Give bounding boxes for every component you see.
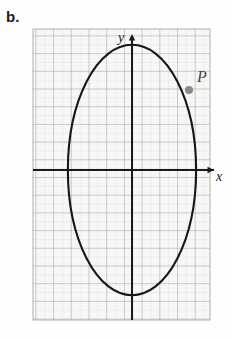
- figure-canvas: b. P y: [0, 0, 232, 338]
- point-p-label: P: [196, 68, 207, 85]
- major-gridlines: [33, 29, 210, 320]
- ellipse-plot: P y x: [0, 0, 232, 338]
- graph-paper: [33, 29, 210, 320]
- x-axis-arrowhead: [208, 167, 215, 173]
- x-axis-label: x: [215, 169, 223, 184]
- y-axis-label: y: [116, 30, 125, 45]
- point-p-marker: [185, 86, 193, 94]
